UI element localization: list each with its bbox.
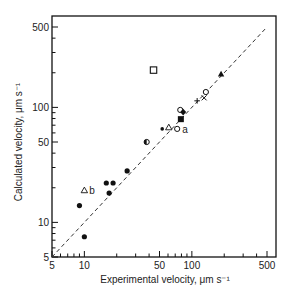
data-point-filled-square: [178, 116, 184, 122]
x-tick-label: 5: [49, 260, 55, 271]
data-point-filled-circle: [125, 168, 130, 173]
x-tick-label: 100: [184, 260, 201, 271]
data-point-cross: [202, 95, 207, 100]
scatter-chart: ba 5105010050051050100500 Experimental v…: [0, 0, 293, 297]
data-point-filled-circle: [82, 234, 87, 239]
data-point-filled-circle: [77, 203, 82, 208]
data-point-small-filled-circle: [160, 127, 164, 131]
point-label-a: a: [182, 124, 188, 135]
x-axis-title: Experimental velocity, μm s⁻¹: [100, 274, 230, 285]
y-tick-label: 100: [32, 102, 49, 113]
data-point-open-square: [150, 67, 156, 73]
y-tick-label: 500: [32, 22, 49, 33]
data-point-filled-circle: [110, 180, 115, 185]
point-label-b: b: [89, 185, 95, 196]
data-point-half-filled-circle: [144, 139, 149, 144]
data-point-filled-circle: [107, 190, 112, 195]
reference-line: [52, 29, 265, 257]
data-point-open-triangle: b: [81, 185, 95, 196]
data-point-open-triangle: [166, 124, 172, 130]
data-point-plus: [194, 98, 200, 104]
data-point-filled-triangle: [218, 71, 224, 77]
y-tick-label: 5: [43, 252, 49, 263]
x-tick-label: 50: [154, 260, 166, 271]
x-tick-label: 10: [79, 260, 91, 271]
tick-labels: 5105010050051050100500: [32, 22, 275, 271]
x-tick-label: 500: [259, 260, 276, 271]
data-point-open-circle: a: [175, 124, 189, 135]
data-points: ba: [77, 67, 224, 239]
y-tick-label: 50: [38, 137, 50, 148]
y-axis-title: Calculated velocity, μm s⁻¹: [13, 82, 24, 201]
data-point-filled-circle: [104, 180, 109, 185]
y-tick-label: 10: [38, 217, 50, 228]
data-point-open-circle: [203, 89, 208, 94]
